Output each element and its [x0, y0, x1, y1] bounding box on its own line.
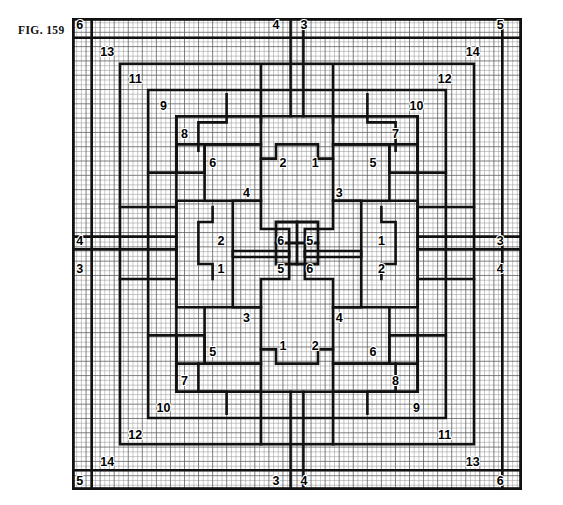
top-center-right: 3	[301, 18, 308, 32]
ring-14-bottom-left: 14	[100, 455, 114, 469]
block-1-lower-center: 1	[279, 339, 286, 353]
ring-11-bottom-right: 11	[438, 428, 451, 442]
ring-9-bottom-right: 9	[413, 401, 420, 415]
right-edge-4: 4	[497, 262, 504, 276]
ring-8-bottom-right: 8	[392, 374, 399, 388]
ring-9-top-left: 9	[160, 99, 167, 113]
ring-11-top-left: 11	[129, 72, 142, 86]
corner-bottom-left: 5	[76, 474, 83, 488]
bottom-center-right: 4	[301, 474, 308, 488]
left-edge-4: 4	[76, 234, 83, 248]
right-edge-3: 3	[497, 234, 504, 248]
ring-8-top-left: 8	[181, 127, 188, 141]
ring-10-top-right: 10	[410, 99, 424, 113]
block-3-upper-right: 3	[336, 186, 343, 200]
block-1-upper-center: 1	[312, 156, 319, 170]
left-edge-3: 3	[76, 262, 83, 276]
block-5-upper-right: 5	[369, 156, 376, 170]
ring-10-bottom-left: 10	[156, 401, 170, 415]
quilt-diagram-svg: 6435131411129108765214343342112655634125…	[72, 18, 522, 490]
block-2-mid-right: 2	[378, 262, 385, 276]
quilt-grid: 6435131411129108765214343342112655634125…	[72, 18, 522, 490]
bottom-center-left: 3	[272, 474, 279, 488]
ring-13-bottom-right: 13	[466, 455, 480, 469]
top-center-left: 4	[272, 18, 279, 32]
corner-top-left: 6	[76, 18, 83, 32]
block-6-lower-right: 6	[369, 345, 376, 359]
block-2-lower-center: 2	[312, 339, 319, 353]
figure-canvas: FIG. 159	[0, 0, 563, 505]
block-1-mid-right: 1	[378, 234, 385, 248]
ring-12-top-right: 12	[438, 72, 452, 86]
block-6-upper-left: 6	[209, 156, 216, 170]
block-4-lower-right: 4	[336, 311, 343, 325]
block-5-lower-left: 5	[209, 345, 216, 359]
center-6-bot-right: 6	[306, 262, 313, 276]
center-5-top-right: 5	[306, 234, 313, 248]
ring-13-top-left: 13	[100, 45, 114, 59]
center-6-top-left: 6	[277, 234, 284, 248]
block-3-lower-left: 3	[243, 311, 250, 325]
ring-7-top-right: 7	[392, 127, 399, 141]
block-1-mid-left: 1	[218, 262, 225, 276]
corner-top-right: 5	[497, 18, 504, 32]
ring-12-bottom-left: 12	[128, 428, 142, 442]
block-2-upper-center: 2	[279, 156, 286, 170]
figure-label: FIG. 159	[18, 24, 65, 36]
ring-14-top-right: 14	[466, 45, 480, 59]
corner-bottom-right: 6	[497, 474, 504, 488]
block-2-mid-left: 2	[218, 234, 225, 248]
ring-7-bottom-left: 7	[181, 374, 188, 388]
block-4-upper-left: 4	[243, 186, 250, 200]
center-5-bot-left: 5	[277, 262, 284, 276]
